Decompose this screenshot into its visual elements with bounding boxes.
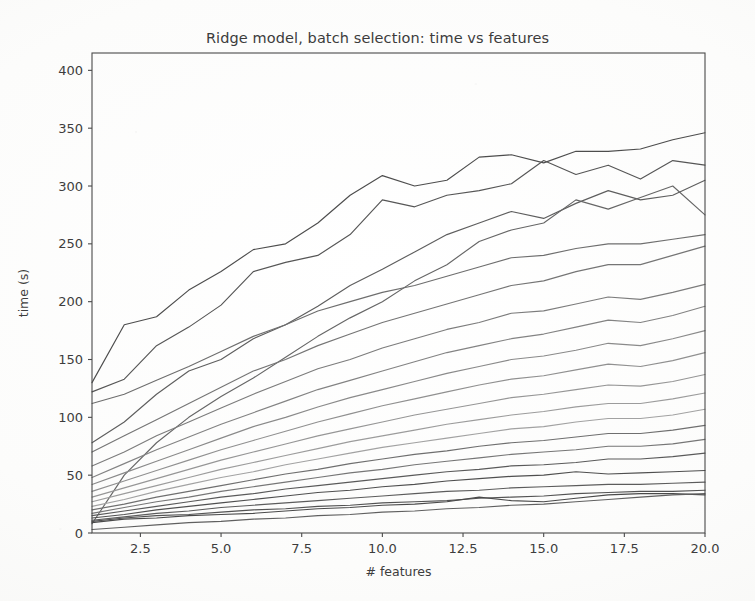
x-tick-label: 7.5: [291, 541, 312, 556]
y-tick-label: 300: [58, 179, 83, 194]
axes-layer: [88, 53, 705, 537]
x-tick-label: 20.0: [691, 541, 720, 556]
line-chart-plot: 0501001502002503003504002.55.07.510.012.…: [0, 0, 755, 601]
x-tick-label: 17.5: [610, 541, 639, 556]
x-tick-label: 12.5: [449, 541, 478, 556]
y-axis-title: time (s): [16, 269, 31, 317]
x-tick-label: 2.5: [130, 541, 151, 556]
y-tick-label: 100: [58, 410, 83, 425]
y-tick-label: 50: [66, 468, 83, 483]
x-axis-title: # features: [365, 564, 431, 579]
series-line: [92, 186, 705, 524]
x-tick-label: 5.0: [211, 541, 232, 556]
y-tick-label: 250: [58, 236, 83, 251]
series-line: [92, 161, 705, 392]
series-layer: [92, 133, 705, 530]
y-tick-label: 200: [58, 294, 83, 309]
y-tick-label: 150: [58, 352, 83, 367]
x-tick-label: 15.0: [529, 541, 558, 556]
figure-canvas: Ridge model, batch selection: time vs fe…: [0, 0, 755, 601]
plot-frame: [92, 53, 705, 533]
matplotlib-figure: Ridge model, batch selection: time vs fe…: [0, 0, 755, 601]
y-tick-label: 400: [58, 63, 83, 78]
series-line: [92, 235, 705, 404]
y-tick-label: 0: [75, 526, 83, 541]
x-tick-label: 10.0: [368, 541, 397, 556]
series-line: [92, 133, 705, 383]
y-tick-label: 350: [58, 121, 83, 136]
